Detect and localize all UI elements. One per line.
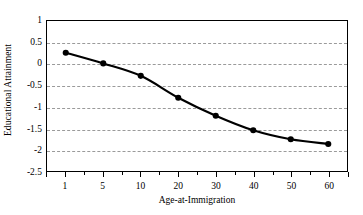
x-axis-minor-tick	[84, 172, 85, 175]
y-axis-tick-label: -1.5	[16, 124, 42, 134]
x-axis-minor-tick	[159, 172, 160, 175]
data-point-marker	[213, 113, 219, 119]
x-axis-tick-label: 50	[271, 180, 311, 192]
data-series-line	[47, 21, 347, 171]
data-point-marker	[325, 141, 331, 147]
y-axis-tick-label: -1	[16, 102, 42, 112]
y-axis-tick-label: 1	[16, 15, 42, 25]
x-axis-minor-tick	[310, 172, 311, 175]
y-axis-tick-label: -0.5	[16, 80, 42, 90]
x-axis-tick-label: 60	[309, 180, 349, 192]
plot-area	[46, 20, 348, 172]
x-axis-tick-label: 5	[83, 180, 123, 192]
data-point-marker	[63, 50, 69, 56]
x-axis-title: Age-at-Immigration	[46, 195, 348, 205]
x-axis-minor-tick	[273, 172, 274, 175]
y-axis-tick-label: 0	[16, 58, 42, 68]
x-axis-tick-label: 10	[120, 180, 160, 192]
series-line	[66, 53, 329, 144]
x-axis-tick-labels: 15102030405060	[46, 180, 348, 194]
x-axis-edge-tick	[348, 172, 349, 177]
x-axis-tick-label: 30	[196, 180, 236, 192]
y-axis-tick-label: 0.5	[16, 37, 42, 47]
x-axis-minor-tick	[235, 172, 236, 175]
data-point-marker	[100, 60, 106, 66]
x-axis-tick-label: 40	[234, 180, 274, 192]
x-axis-tick-label: 20	[158, 180, 198, 192]
y-axis-tick-labels: 10.50-0.5-1-1.5-2-2.5	[14, 0, 42, 215]
y-axis-title-text: Educational Attainment	[3, 44, 13, 136]
x-axis-edge-tick	[46, 172, 47, 177]
data-point-marker	[138, 73, 144, 79]
x-axis-tick	[254, 172, 255, 177]
x-axis-tick	[291, 172, 292, 177]
x-axis-tick	[329, 172, 330, 177]
x-axis-tick	[216, 172, 217, 177]
data-point-marker	[175, 95, 181, 101]
y-axis-tick-label: -2	[16, 145, 42, 155]
x-axis-tick	[140, 172, 141, 177]
data-point-marker	[288, 136, 294, 142]
x-axis-tick-label: 1	[45, 180, 85, 192]
x-axis-tick	[178, 172, 179, 177]
y-axis-tick-label: -2.5	[16, 167, 42, 177]
x-axis-ticks	[46, 172, 348, 178]
x-axis-minor-tick	[122, 172, 123, 175]
x-axis-tick	[65, 172, 66, 177]
x-axis-minor-tick	[197, 172, 198, 175]
x-axis-tick	[103, 172, 104, 177]
data-point-marker	[250, 127, 256, 133]
chart-container: Educational Attainment 10.50-0.5-1-1.5-2…	[0, 0, 363, 215]
